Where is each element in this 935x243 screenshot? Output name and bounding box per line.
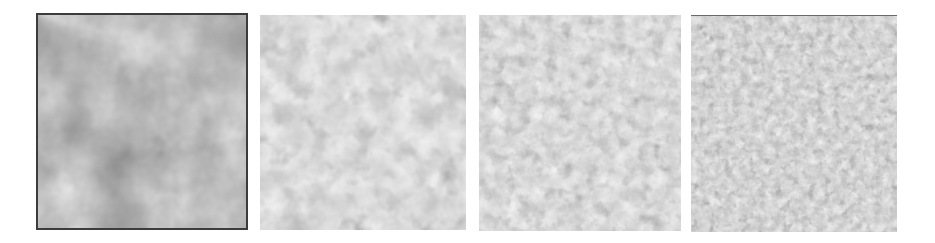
texture-panel-coarse [36, 13, 248, 230]
texture-panel-medium [260, 15, 466, 230]
grain-texture-image [260, 15, 466, 230]
grain-texture-image [38, 15, 246, 228]
grain-texture-image [691, 16, 897, 232]
texture-panel-fine [479, 15, 681, 231]
texture-panel-finest [691, 15, 897, 232]
grain-texture-image [479, 15, 681, 231]
